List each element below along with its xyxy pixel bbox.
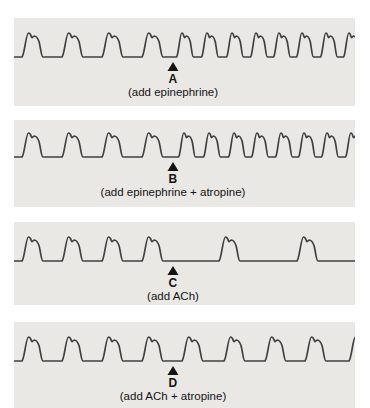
trace-panel-d: D (add ACh + atropine) — [14, 322, 355, 408]
event-arrow-up-icon-d — [168, 366, 179, 375]
event-caption-b: (add epinephrine + atropine) — [101, 187, 246, 199]
event-caption-d: (add ACh + atropine) — [120, 391, 226, 403]
trace-panel-b: B (add epinephrine + atropine) — [14, 120, 355, 207]
event-caption-c: (add ACh) — [147, 291, 199, 303]
event-arrow-up-icon-b — [168, 162, 179, 171]
event-label-d: D — [169, 377, 178, 389]
event-label-a: A — [169, 73, 178, 85]
event-label-c: C — [169, 277, 178, 289]
event-arrow-up-icon-c — [168, 266, 179, 275]
contraction-trace-a — [14, 33, 355, 57]
trace-panel-c: C (add ACh) — [14, 222, 355, 305]
trace-panel-a: A (add epinephrine) — [14, 18, 355, 106]
contraction-trace-d — [14, 337, 355, 361]
contraction-trace-b — [14, 133, 355, 157]
contraction-trace-c — [14, 237, 355, 261]
event-caption-a: (add epinephrine) — [128, 87, 218, 99]
event-arrow-up-icon-a — [168, 62, 179, 71]
physiology-figure: A (add epinephrine) B (add epinephrine +… — [0, 0, 370, 408]
event-label-b: B — [169, 173, 178, 185]
